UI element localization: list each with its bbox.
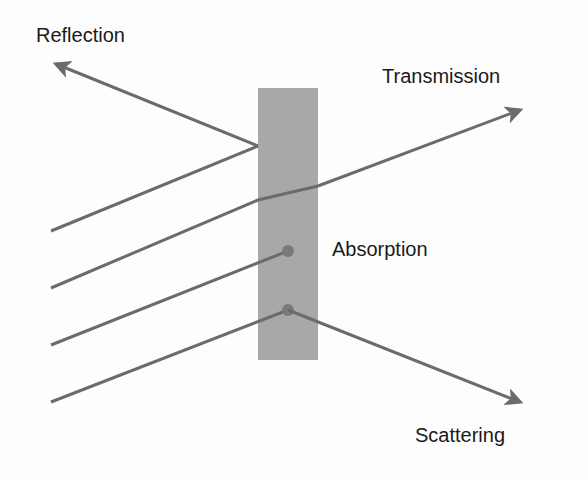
scattering-label: Scattering: [415, 424, 505, 447]
reflection-ray: [51, 64, 258, 231]
absorption-point-icon: [282, 245, 294, 257]
absorption-ray: [51, 245, 294, 345]
scattering-arrow-icon: [288, 310, 520, 402]
transmission-arrow-icon: [318, 110, 520, 186]
transmission-label: Transmission: [382, 65, 500, 88]
reflection-arrow-icon: [56, 64, 258, 146]
reflection-label: Reflection: [36, 24, 125, 47]
absorption-label: Absorption: [332, 238, 428, 261]
